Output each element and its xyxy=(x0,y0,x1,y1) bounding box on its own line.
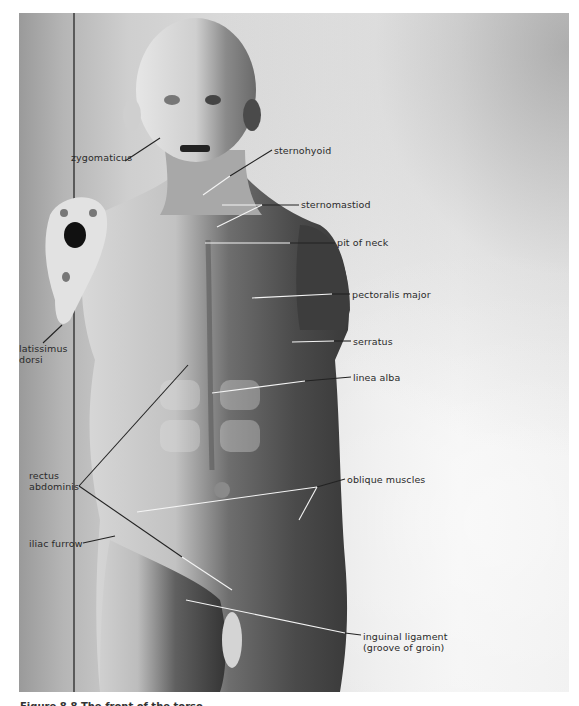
background-pole xyxy=(73,13,75,692)
head xyxy=(136,18,256,162)
label-oblique-muscles: oblique muscles xyxy=(347,474,425,485)
label-rectus-abdominis: rectus abdominis xyxy=(29,470,79,492)
label-latissimus-dorsi: latissimus dorsi xyxy=(19,343,68,365)
label-serratus: serratus xyxy=(353,336,393,347)
label-iliac-furrow: iliac furrow xyxy=(29,538,83,549)
torso-figure xyxy=(19,13,569,692)
genitalia-sculpt xyxy=(222,612,242,668)
label-pit-of-neck: pit of neck xyxy=(337,237,388,248)
label-zygomaticus: zygomaticus xyxy=(71,152,132,163)
mouth xyxy=(180,145,210,152)
label-inguinal-ligament: inguinal ligament xyxy=(363,631,448,642)
figure-caption: Figure 8.8 The front of the torso xyxy=(20,700,203,706)
page: zygomaticus sternohyoid sternomastiod pi… xyxy=(0,0,579,706)
left-ear xyxy=(123,99,141,131)
label-sternomastiod: sternomastiod xyxy=(301,199,371,210)
label-linea-alba: linea alba xyxy=(353,372,400,383)
label-groove-of-groin: (groove of groin) xyxy=(363,642,444,653)
anatomy-photograph xyxy=(19,13,569,692)
navel xyxy=(214,482,230,498)
label-sternohyoid: sternohyoid xyxy=(274,145,331,156)
right-ear xyxy=(243,99,261,131)
shoulder-socket xyxy=(64,222,86,248)
label-pectoralis-major: pectoralis major xyxy=(352,289,431,300)
